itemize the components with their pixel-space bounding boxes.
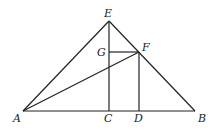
segments <box>23 21 195 111</box>
label-A: A <box>12 112 21 125</box>
geometry-diagram: A B C D E F G <box>0 0 216 129</box>
label-B: B <box>197 112 206 125</box>
segment-EB <box>109 21 195 111</box>
label-C: C <box>104 112 113 125</box>
label-E: E <box>103 7 112 20</box>
label-F: F <box>141 41 150 54</box>
label-D: D <box>133 112 143 125</box>
segment-AE <box>23 21 109 111</box>
segment-AF <box>23 52 139 111</box>
label-G: G <box>97 46 106 59</box>
